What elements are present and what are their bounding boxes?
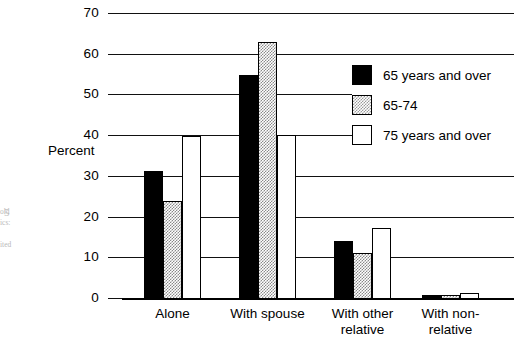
bar-3-2 (460, 293, 479, 299)
tick-stub-40 (108, 135, 122, 136)
x-axis-label-2: With other relative (332, 306, 394, 337)
bar-0-2 (182, 136, 201, 299)
y-axis-title: Percent (48, 143, 95, 158)
tick-stub-10 (108, 257, 122, 258)
bar-1-0 (239, 75, 258, 299)
bar-3-1 (441, 295, 460, 299)
legend-swatch-65-and-over (352, 65, 372, 85)
y-tick-text: 20 (84, 209, 99, 224)
y-tick-text: 40 (84, 127, 99, 142)
legend-item-2: 75 years and over (352, 120, 514, 150)
legend-item-0: 65 years and over (352, 60, 514, 90)
y-tick-text: 10 (84, 249, 99, 264)
tick-stub-20 (108, 217, 122, 218)
bar-0-1 (163, 201, 182, 299)
chart-legend: 65 years and over 65-74 75 years and ove… (352, 60, 514, 150)
legend-swatch-65-74 (352, 95, 372, 115)
bar-2-0 (334, 241, 353, 299)
tick-stub-50 (108, 94, 122, 95)
y-tick-text: 30 (84, 168, 99, 183)
y-tick-text: 60 (84, 46, 99, 61)
margin-caption-text: old ics: ited (0, 206, 34, 250)
bar-3-0 (422, 295, 441, 299)
legend-label-0: 65 years and over (383, 68, 491, 83)
y-tick-text: 0 (91, 290, 99, 305)
bar-1-2 (277, 135, 296, 299)
bar-chart: 5 old ics: ited Percent 010203040506070 … (0, 0, 514, 342)
tick-stub-60 (108, 54, 122, 55)
y-tick-text: 50 (84, 86, 99, 101)
y-tick-text: 70 (84, 5, 99, 20)
bar-1-1 (258, 42, 277, 299)
legend-label-1: 65-74 (383, 98, 418, 113)
legend-item-1: 65-74 (352, 90, 514, 120)
tick-stub-0 (108, 298, 122, 299)
x-axis-label-0: Alone (155, 306, 190, 322)
x-axis-label-1: With spouse (230, 306, 304, 322)
bar-2-1 (353, 253, 372, 299)
tick-stub-30 (108, 176, 122, 177)
bar-2-2 (372, 228, 391, 299)
legend-label-2: 75 years and over (383, 128, 491, 143)
x-axis-label-3: With non- relative (422, 306, 480, 337)
bar-0-0 (144, 171, 163, 299)
legend-swatch-75-and-over (352, 125, 372, 145)
tick-stub-70 (108, 13, 122, 14)
